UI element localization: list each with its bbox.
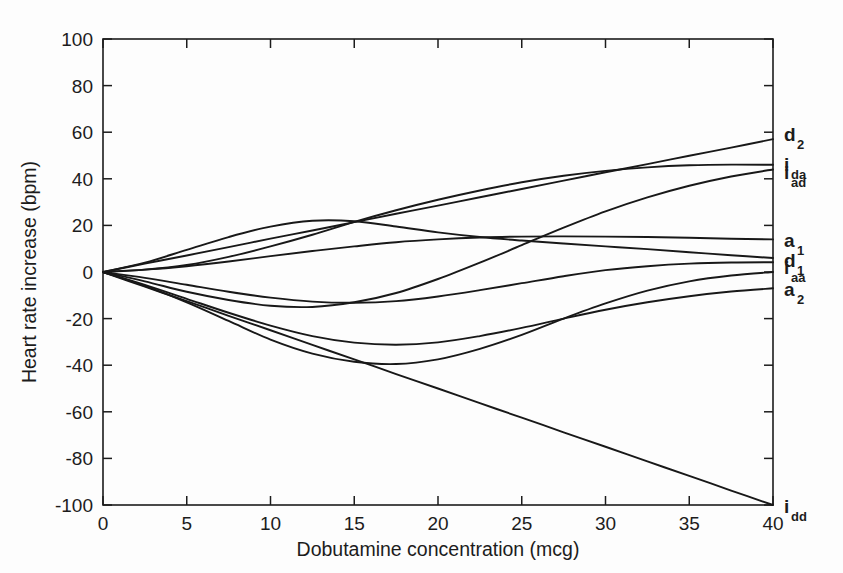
y-tick-label: 60 bbox=[72, 122, 93, 143]
x-tick-label: 15 bbox=[344, 513, 365, 534]
y-tick-label: 100 bbox=[61, 29, 93, 50]
series-label-subscript: ad bbox=[791, 175, 806, 190]
series-label-subscript: dd bbox=[791, 509, 807, 524]
line-chart: -100-80-60-40-20020406080100 05101520253… bbox=[0, 0, 843, 573]
x-tick-label: 30 bbox=[595, 513, 616, 534]
y-tick-label: 80 bbox=[72, 76, 93, 97]
y-tick-label: 0 bbox=[82, 262, 93, 283]
x-tick-label: 20 bbox=[427, 513, 448, 534]
x-axis-title: Dobutamine concentration (mcg) bbox=[297, 538, 580, 560]
x-tick-label: 0 bbox=[98, 513, 109, 534]
x-tick-label: 5 bbox=[181, 513, 192, 534]
y-tick-label: -40 bbox=[66, 355, 93, 376]
series-label-base: a bbox=[784, 279, 795, 300]
y-tick-label: 20 bbox=[72, 215, 93, 236]
series-label-subscript: 2 bbox=[797, 137, 804, 152]
y-tick-label: 40 bbox=[72, 169, 93, 190]
y-tick-label: -20 bbox=[66, 309, 93, 330]
y-axis-title: Heart rate increase (bpm) bbox=[18, 161, 40, 383]
figure-container: -100-80-60-40-20020406080100 05101520253… bbox=[0, 0, 843, 573]
y-tick-label: -60 bbox=[66, 402, 93, 423]
x-tick-label: 40 bbox=[762, 513, 783, 534]
y-tick-label: -80 bbox=[66, 448, 93, 469]
series-label-base: i bbox=[784, 162, 789, 183]
series-label-base: i bbox=[784, 257, 789, 278]
x-tick-label: 35 bbox=[679, 513, 700, 534]
series-label-base: i bbox=[784, 496, 789, 517]
series-label-base: a bbox=[784, 230, 795, 251]
chart-background bbox=[0, 0, 843, 573]
series-label-base: d bbox=[784, 124, 796, 145]
x-tick-label: 25 bbox=[511, 513, 532, 534]
y-tick-label: -100 bbox=[55, 495, 93, 516]
series-label-subscript: 2 bbox=[797, 292, 804, 307]
x-tick-label: 10 bbox=[260, 513, 281, 534]
series-label-subscript: 1 bbox=[797, 243, 804, 258]
